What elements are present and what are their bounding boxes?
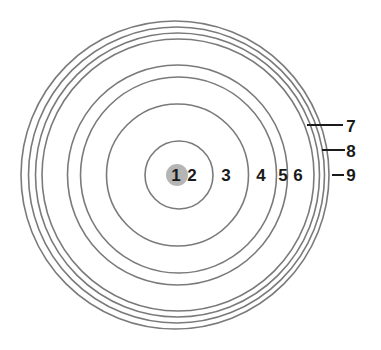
label-4: 4 xyxy=(256,166,266,185)
label-1: 1 xyxy=(171,166,180,185)
label-7: 7 xyxy=(346,117,355,136)
label-8: 8 xyxy=(346,142,355,161)
label-6: 6 xyxy=(293,166,302,185)
label-5: 5 xyxy=(278,166,287,185)
concentric-circles-diagram: 123456789 xyxy=(0,0,381,350)
label-3: 3 xyxy=(221,166,230,185)
label-9: 9 xyxy=(346,166,355,185)
label-2: 2 xyxy=(187,166,196,185)
